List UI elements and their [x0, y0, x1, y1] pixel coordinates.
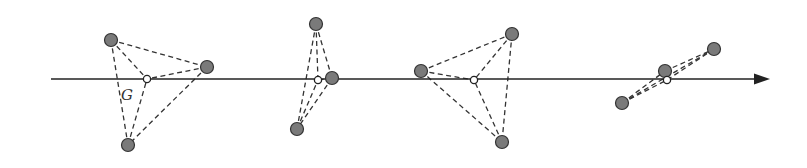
dashed-edge	[316, 24, 332, 78]
dashed-edge	[421, 34, 512, 71]
centroid-label: G	[121, 86, 133, 104]
particle-icon	[310, 18, 323, 31]
particle-icon	[616, 97, 629, 110]
dashed-edge	[502, 34, 512, 142]
arrowhead-icon	[754, 74, 770, 85]
particle-icon	[291, 123, 304, 136]
centroid-marker-icon	[663, 76, 670, 83]
dashed-edge	[622, 71, 665, 103]
centre-of-mass-diagram: G	[0, 0, 807, 168]
dashed-to-centroid	[474, 80, 502, 142]
particle-icon	[201, 61, 214, 74]
dashed-to-centroid	[297, 80, 318, 129]
particle-icon	[506, 28, 519, 41]
particle-icon	[708, 43, 721, 56]
dashed-edge	[297, 24, 316, 129]
particles-layer	[105, 18, 721, 152]
dashed-edge	[111, 40, 207, 67]
dashed-to-centroid	[147, 67, 207, 79]
dashed-to-centroid	[111, 40, 147, 79]
dashed-edge	[421, 71, 502, 142]
diagram-canvas: G	[0, 0, 807, 168]
centroid-marker-icon	[314, 76, 321, 83]
particle-icon	[105, 34, 118, 47]
centroid-marker-icon	[470, 76, 477, 83]
dashed-to-centroid	[622, 80, 667, 103]
dashed-to-centroid	[316, 24, 318, 80]
dashed-edge	[665, 49, 714, 71]
centroid-marker-icon	[143, 75, 150, 82]
particle-icon	[122, 139, 135, 152]
particle-icon	[326, 72, 339, 85]
particle-icon	[415, 65, 428, 78]
particle-icon	[496, 136, 509, 149]
dashed-to-centroid	[474, 34, 512, 80]
particle-icon	[659, 65, 672, 78]
dashed-lines-layer	[111, 24, 714, 145]
